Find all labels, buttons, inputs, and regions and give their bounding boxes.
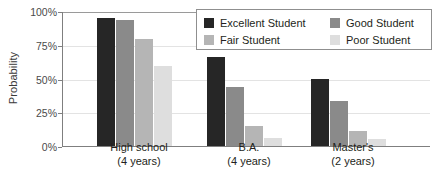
- x-axis-group-label: Master's(2 years): [290, 141, 416, 168]
- legend-swatch-icon: [330, 35, 340, 45]
- y-axis-tick-label: 0%: [15, 141, 57, 153]
- y-axis-tick-mark: [58, 147, 62, 148]
- bar-group: [97, 12, 183, 146]
- legend-swatch-icon: [204, 35, 214, 45]
- bar: [154, 66, 172, 146]
- legend: Excellent StudentGood StudentFair Studen…: [196, 9, 432, 50]
- legend-item[interactable]: Poor Student: [330, 31, 425, 48]
- legend-item[interactable]: Good Student: [330, 14, 425, 31]
- y-axis-tick-label: 75%: [15, 40, 57, 52]
- x-axis-group-label-primary: Master's: [332, 141, 373, 153]
- x-axis-group-label: High school(4 years): [76, 141, 202, 168]
- bar: [97, 18, 115, 146]
- legend-swatch-icon: [204, 18, 214, 28]
- x-axis-group-label-primary: High school: [110, 141, 167, 153]
- bar: [311, 79, 329, 147]
- legend-label: Fair Student: [220, 34, 280, 46]
- bar: [226, 87, 244, 146]
- legend-item[interactable]: Fair Student: [204, 31, 330, 48]
- legend-label: Good Student: [346, 17, 414, 29]
- x-axis-group-label-primary: B.A.: [239, 141, 260, 153]
- bar-chart: Probability 0%25%50%75%100% High school(…: [0, 0, 437, 189]
- legend-label: Excellent Student: [220, 17, 306, 29]
- x-axis-group-label-secondary: (2 years): [290, 155, 416, 169]
- y-axis-tick-label: 50%: [15, 74, 57, 86]
- bar: [207, 57, 225, 146]
- bar: [330, 101, 348, 146]
- bar: [135, 39, 153, 146]
- legend-label: Poor Student: [346, 34, 410, 46]
- y-axis-tick-label: 25%: [15, 107, 57, 119]
- bar: [116, 20, 134, 146]
- legend-swatch-icon: [330, 18, 340, 28]
- legend-item[interactable]: Excellent Student: [204, 14, 330, 31]
- x-axis-group-label-secondary: (4 years): [76, 155, 202, 169]
- y-axis-tick-label: 100%: [15, 6, 57, 18]
